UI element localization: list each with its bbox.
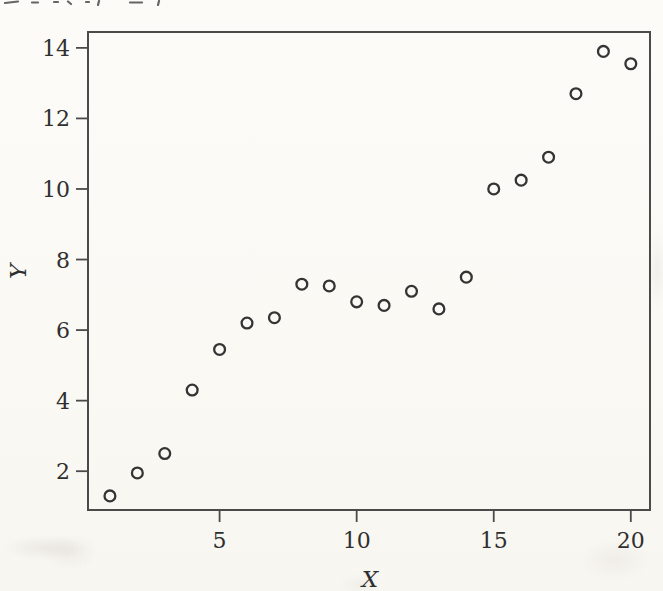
data-point bbox=[461, 272, 472, 283]
data-point bbox=[269, 312, 280, 323]
data-point bbox=[105, 490, 116, 501]
data-point bbox=[159, 448, 170, 459]
x-tick-label: 10 bbox=[343, 528, 371, 553]
data-point bbox=[379, 300, 390, 311]
scatter-plot: 51015202468101214 bbox=[0, 0, 663, 591]
data-point bbox=[187, 385, 198, 396]
data-point bbox=[625, 58, 636, 69]
data-point bbox=[434, 304, 445, 315]
y-tick-label: 6 bbox=[56, 318, 70, 343]
data-point bbox=[214, 344, 225, 355]
x-tick-label: 5 bbox=[213, 528, 227, 553]
y-tick-label: 14 bbox=[42, 36, 70, 61]
x-tick-label: 15 bbox=[480, 528, 508, 553]
y-tick-label: 10 bbox=[42, 177, 70, 202]
data-point bbox=[324, 281, 335, 292]
data-point bbox=[543, 152, 554, 163]
y-tick-label: 8 bbox=[56, 248, 70, 273]
data-point bbox=[296, 279, 307, 290]
y-axis-label: Y bbox=[7, 232, 30, 312]
scanned-book-page: 51015202468101214 X Y bbox=[0, 0, 663, 591]
y-tick-label: 4 bbox=[56, 389, 70, 414]
y-tick-label: 2 bbox=[56, 459, 70, 484]
data-point bbox=[242, 318, 253, 329]
data-point bbox=[516, 175, 527, 186]
data-point bbox=[132, 468, 143, 479]
x-tick-label: 20 bbox=[617, 528, 645, 553]
y-tick-label: 12 bbox=[42, 106, 70, 131]
plot-frame bbox=[88, 32, 650, 510]
data-point bbox=[406, 286, 417, 297]
data-point bbox=[571, 88, 582, 99]
data-point bbox=[488, 184, 499, 195]
data-point bbox=[351, 296, 362, 307]
data-point bbox=[598, 46, 609, 57]
x-axis-label: X bbox=[330, 568, 410, 591]
